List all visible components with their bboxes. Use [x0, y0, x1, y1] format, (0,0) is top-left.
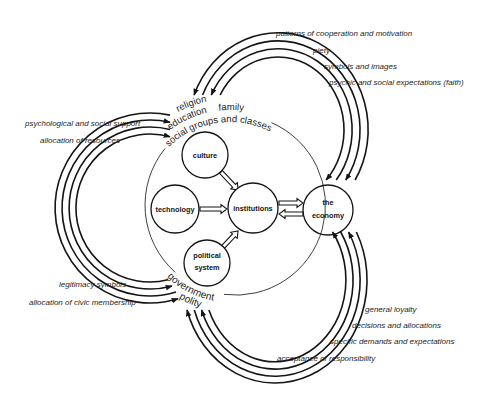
- node-culture: culture: [182, 132, 228, 178]
- flow-label: psychological and social support: [24, 119, 141, 128]
- institutions-label: institutions: [233, 204, 272, 213]
- political-label: political: [193, 251, 221, 260]
- flow-label: psychic and social expectations (faith): [328, 78, 464, 87]
- flow-label: piety: [312, 46, 331, 55]
- flow-label: symbols and images: [324, 62, 397, 71]
- flow-label: general loyalty: [365, 305, 418, 314]
- node-institutions: institutions: [228, 183, 278, 233]
- flow-label: allocation of civic membership: [29, 298, 136, 307]
- flow-label: patterns of cooperation and motivation: [275, 29, 413, 38]
- the-label: the: [323, 198, 334, 207]
- society-economy-diagram: patterns of cooperation and motivation p…: [0, 0, 486, 404]
- node-political-system: political system: [184, 240, 230, 286]
- flow-label: specific demands and expectations: [330, 337, 455, 346]
- node-technology: technology: [151, 185, 199, 233]
- culture-label: culture: [193, 151, 217, 160]
- flow-label: decisions and allocations: [352, 321, 441, 330]
- technology-label: technology: [156, 205, 196, 214]
- economy-label: economy: [312, 211, 345, 220]
- flow-label: legitimacy symbols: [59, 280, 126, 289]
- family-label: family: [218, 101, 245, 113]
- flow-label: allocation of resources: [40, 136, 120, 145]
- system-label: system: [194, 263, 220, 272]
- flow-label: acceptance of responsibility: [277, 354, 376, 363]
